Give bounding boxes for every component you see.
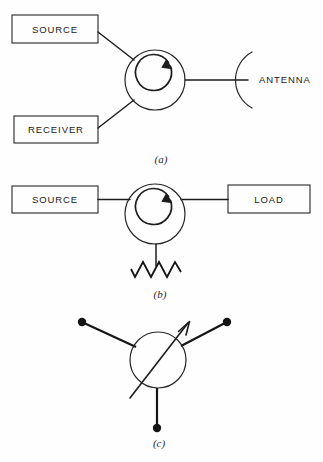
panel-b-load-label: LOAD (254, 194, 283, 205)
panel-c: (c) (78, 318, 231, 450)
panel-a: SOURCE RECEIVER ANTENNA (12, 15, 311, 166)
panel-b-caption: (b) (154, 288, 167, 301)
panel-c-upper-right-terminal-dot (223, 318, 231, 326)
antenna-label: ANTENNA (259, 74, 311, 85)
panel-c-direction-arrow-icon (130, 322, 190, 399)
panel-a-source-box: SOURCE (12, 15, 98, 43)
panel-a-rotation-arrow-icon (136, 54, 173, 90)
panel-b-rotation-arrow-icon (136, 188, 173, 224)
panel-a-receiver-label: RECEIVER (28, 124, 84, 135)
panel-a-source-label: SOURCE (32, 24, 78, 35)
panel-b-load-box: LOAD (228, 185, 310, 213)
panel-c-upper-left-lead (84, 323, 136, 347)
panel-b-source-label: SOURCE (32, 194, 78, 205)
panel-a-source-lead (98, 32, 134, 60)
panel-b: SOURCE LOAD (b) (12, 184, 310, 301)
panel-b-circulator-circle (125, 184, 185, 244)
circulator-figure: SOURCE RECEIVER ANTENNA (0, 0, 323, 462)
panel-c-caption: (c) (153, 437, 166, 450)
panel-a-circulator-circle (125, 50, 185, 110)
panel-a-receiver-lead (98, 100, 134, 128)
panel-b-source-box: SOURCE (12, 186, 98, 213)
panel-c-bottom-terminal-dot (153, 424, 161, 432)
panel-a-receiver-box: RECEIVER (14, 116, 98, 143)
panel-c-circulator-circle (130, 332, 186, 388)
panel-a-caption: (a) (155, 153, 168, 166)
panel-c-upper-left-terminal-dot (78, 318, 86, 326)
